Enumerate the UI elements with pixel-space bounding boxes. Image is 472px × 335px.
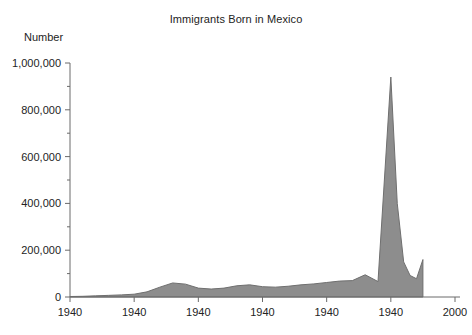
- svg-text:600,000: 600,000: [21, 151, 61, 163]
- svg-text:0: 0: [55, 291, 61, 303]
- chart-container: Immigrants Born in Mexico Number 0200,00…: [0, 0, 472, 335]
- svg-text:2000: 2000: [443, 306, 467, 318]
- y-axis-ticks: [65, 63, 70, 297]
- y-axis-tick-labels: 0200,000400,000600,000800,0001,000,000: [12, 57, 61, 303]
- x-axis-tick-labels: 1940194019401940194019402000: [58, 306, 467, 318]
- svg-text:1940: 1940: [122, 306, 146, 318]
- svg-text:800,000: 800,000: [21, 104, 61, 116]
- svg-text:1940: 1940: [250, 306, 274, 318]
- svg-text:1940: 1940: [58, 306, 82, 318]
- svg-text:200,000: 200,000: [21, 244, 61, 256]
- svg-text:1940: 1940: [314, 306, 338, 318]
- svg-text:1,000,000: 1,000,000: [12, 57, 61, 69]
- svg-text:1940: 1940: [186, 306, 210, 318]
- svg-text:400,000: 400,000: [21, 197, 61, 209]
- plot-area: 0200,000400,000600,000800,0001,000,000 1…: [0, 0, 472, 335]
- svg-text:1940: 1940: [379, 306, 403, 318]
- x-axis-ticks: [70, 297, 455, 302]
- area-series-immigrants: [70, 77, 423, 297]
